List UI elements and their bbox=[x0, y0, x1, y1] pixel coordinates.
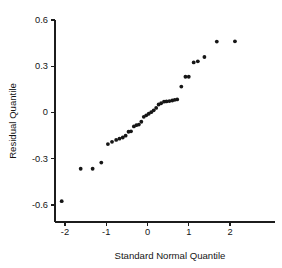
data-point bbox=[187, 75, 191, 79]
qq-plot-figure: -0.6-0.300.30.6 -2-1012 Standard Normal … bbox=[0, 0, 282, 268]
data-point bbox=[60, 199, 64, 203]
x-tick-label: 2 bbox=[227, 227, 232, 237]
data-point bbox=[106, 142, 110, 146]
y-tick-label: -0.6 bbox=[32, 200, 48, 210]
data-point bbox=[110, 140, 114, 144]
plot-canvas: -0.6-0.300.30.6 -2-1012 Standard Normal … bbox=[0, 0, 282, 268]
data-point bbox=[114, 138, 118, 142]
data-point bbox=[173, 98, 177, 102]
data-point bbox=[129, 129, 133, 133]
data-point bbox=[79, 167, 83, 171]
data-point bbox=[154, 106, 158, 110]
x-axis-ticks: -2-1012 bbox=[61, 222, 233, 237]
data-points-layer bbox=[60, 39, 237, 203]
data-point bbox=[139, 120, 143, 124]
data-point bbox=[184, 75, 188, 79]
y-axis-title: Residual Quantile bbox=[7, 83, 18, 159]
y-tick-label: 0 bbox=[43, 107, 48, 117]
data-point bbox=[196, 59, 200, 63]
data-point bbox=[215, 40, 219, 44]
data-point bbox=[91, 167, 95, 171]
data-point bbox=[233, 39, 237, 43]
data-point bbox=[192, 60, 196, 64]
y-tick-label: 0.6 bbox=[35, 15, 48, 25]
y-tick-label: -0.3 bbox=[32, 154, 48, 164]
x-tick-label: 0 bbox=[145, 227, 150, 237]
y-tick-label: 0.3 bbox=[35, 61, 48, 71]
x-axis-title: Standard Normal Quantile bbox=[115, 250, 226, 261]
x-tick-label: -1 bbox=[102, 227, 110, 237]
y-axis-ticks: -0.6-0.300.30.6 bbox=[32, 15, 55, 210]
x-tick-label: 1 bbox=[186, 227, 191, 237]
data-point bbox=[203, 55, 207, 59]
data-point bbox=[124, 134, 128, 138]
data-point bbox=[118, 137, 122, 141]
data-point bbox=[179, 85, 183, 89]
data-point bbox=[99, 161, 103, 165]
axes-group bbox=[55, 20, 275, 222]
x-tick-label: -2 bbox=[61, 227, 69, 237]
